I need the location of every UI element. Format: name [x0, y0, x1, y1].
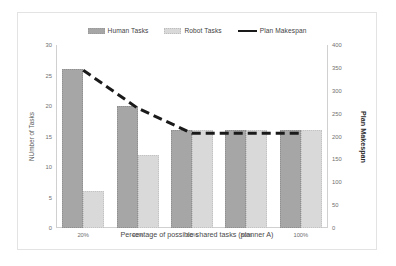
- bar-robot-tasks[interactable]: [83, 191, 104, 228]
- bar-robot-tasks[interactable]: [301, 130, 322, 228]
- bar-group: [219, 45, 273, 228]
- y-tick-secondary: 250: [332, 111, 342, 117]
- bar-robot-tasks[interactable]: [192, 130, 213, 228]
- y-tick-primary: 5: [49, 195, 52, 201]
- bar-human-tasks[interactable]: [171, 130, 192, 228]
- legend-item-plan-makespan[interactable]: Plan Makespan: [238, 27, 307, 34]
- y-tick-primary: 15: [46, 134, 52, 140]
- y-tick-secondary: 150: [332, 156, 342, 162]
- y-axis-primary-title: NUmber of Tasks: [28, 45, 35, 228]
- y-tick-secondary: 350: [332, 65, 342, 71]
- y-tick-secondary: 100: [332, 179, 342, 185]
- y-tick-secondary: 50: [332, 202, 338, 208]
- legend-item-human-tasks[interactable]: Human Tasks: [88, 27, 149, 34]
- legend-label-human-tasks: Human Tasks: [108, 27, 149, 34]
- legend-label-robot-tasks: Robot Tasks: [184, 27, 221, 34]
- y-tick-primary: 10: [46, 164, 52, 170]
- y-axis-secondary-title: Plan Makespan: [359, 45, 368, 228]
- legend-swatch-robot-tasks-icon: [164, 28, 181, 34]
- y-tick-primary: 25: [46, 73, 52, 79]
- legend-label-plan-makespan: Plan Makespan: [260, 27, 307, 34]
- bar-group: [274, 45, 328, 228]
- bar-group: [56, 45, 110, 228]
- y-tick-primary: 30: [46, 42, 52, 48]
- bar-robot-tasks[interactable]: [246, 130, 267, 228]
- legend-item-robot-tasks[interactable]: Robot Tasks: [164, 27, 221, 34]
- legend-swatch-plan-makespan-icon: [238, 30, 257, 32]
- y-tick-secondary: 200: [332, 134, 342, 140]
- bar-human-tasks[interactable]: [117, 106, 138, 228]
- plot-area: 051015202530 050100150200250300350400: [56, 45, 328, 228]
- y-tick-primary: 20: [46, 103, 52, 109]
- y-tick-secondary: 400: [332, 42, 342, 48]
- x-axis-title: Percentage of possible shared tasks (pla…: [18, 230, 376, 239]
- bar-group: [165, 45, 219, 228]
- bar-robot-tasks[interactable]: [138, 155, 159, 228]
- bar-human-tasks[interactable]: [280, 130, 301, 228]
- bar-series-layer: [56, 45, 328, 228]
- legend-swatch-human-tasks-icon: [88, 28, 105, 34]
- chart-legend: Human Tasks Robot Tasks Plan Makespan: [18, 27, 376, 34]
- bar-human-tasks[interactable]: [62, 69, 83, 228]
- bar-human-tasks[interactable]: [225, 130, 246, 228]
- chart-container: Human Tasks Robot Tasks Plan Makespan NU…: [17, 12, 377, 250]
- y-tick-secondary: 300: [332, 88, 342, 94]
- bar-group: [110, 45, 164, 228]
